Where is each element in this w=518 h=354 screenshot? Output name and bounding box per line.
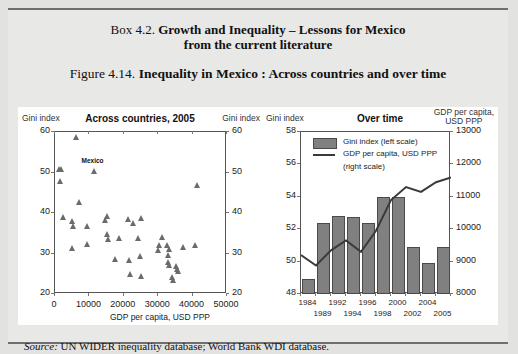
legend-label-gdp: GDP per capita, USD PPP xyxy=(343,149,437,158)
scatter-marker xyxy=(159,234,165,240)
scatter-marker xyxy=(138,273,144,279)
xtick-label-top: 1984 xyxy=(292,298,324,307)
ytick-label-left: 30 xyxy=(30,247,50,257)
source-label: Source: xyxy=(24,340,58,352)
scatter-marker xyxy=(105,236,111,242)
ytick-mark-right xyxy=(226,253,229,254)
scatter-marker xyxy=(170,277,176,283)
xtick-label-bottom: 2005 xyxy=(427,309,459,318)
xtick-mark xyxy=(157,293,158,296)
ytick-label-left: 20 xyxy=(30,287,50,297)
ytick-label-right: 11000 xyxy=(456,190,480,200)
legend-label-gini: Gini index (left scale) xyxy=(343,137,418,146)
scatter-marker xyxy=(102,217,108,223)
ytick-label-left: 60 xyxy=(30,125,50,135)
chart-right-ylabel-right: GDP per capita, USD PPP xyxy=(434,108,494,126)
scatter-marker xyxy=(91,168,97,174)
ytick-mark-right xyxy=(450,131,453,132)
ytick-mark-left xyxy=(297,163,300,164)
chart-left-ylabel-left: Gini index xyxy=(22,114,60,123)
xtick-mark xyxy=(420,293,421,296)
ytick-mark-left xyxy=(297,228,300,229)
scatter-marker xyxy=(194,182,200,188)
scatter-marker xyxy=(112,256,118,262)
box-title-line1: Growth and Inequality – Lessons for Mexi… xyxy=(158,22,405,37)
source-note: Source: UN WIDER inequality database; Wo… xyxy=(24,340,329,352)
xtick-label-top: 1996 xyxy=(352,298,384,307)
scatter-plot-area: Mexico xyxy=(54,131,226,293)
box-label: Box 4.2. xyxy=(111,22,155,37)
xtick-mark xyxy=(54,293,55,296)
ytick-mark-right xyxy=(450,196,453,197)
xtick-mark xyxy=(405,293,406,296)
xtick-mark xyxy=(330,293,331,296)
scatter-marker xyxy=(76,199,82,205)
ytick-label-right: 13000 xyxy=(456,125,481,135)
ytick-label-right: 30 xyxy=(232,247,242,257)
scatter-marker xyxy=(155,247,161,253)
scatter-marker xyxy=(130,220,136,226)
scatter-marker xyxy=(175,268,181,274)
ytick-mark-left xyxy=(297,131,300,132)
xtick-mark xyxy=(315,293,316,296)
scatter-marker xyxy=(126,257,132,263)
ytick-label-right: 40 xyxy=(232,206,242,216)
xtick-label-bottom: 2002 xyxy=(397,309,429,318)
scatter-marker xyxy=(69,245,75,251)
ytick-mark-right xyxy=(450,228,453,229)
chart-left-ylabel-right: Gini index xyxy=(222,114,260,123)
ytick-mark-right xyxy=(226,172,229,173)
xtick-label-top: 1992 xyxy=(322,298,354,307)
xtick-mark-top xyxy=(226,131,227,134)
ytick-mark-left xyxy=(51,212,54,213)
scatter-marker xyxy=(165,252,171,258)
xtick-mark xyxy=(88,293,89,296)
legend-label-gdp-scale: (right scale) xyxy=(343,162,385,171)
ytick-label-left: 50 xyxy=(30,166,50,176)
xtick-mark-top xyxy=(88,131,89,134)
ytick-mark-left xyxy=(297,261,300,262)
xtick-label: 20000 xyxy=(105,299,141,309)
xtick-mark xyxy=(226,293,227,296)
scatter-marker xyxy=(57,178,63,184)
xtick-label: 10000 xyxy=(70,299,106,309)
scatter-marker xyxy=(192,242,198,248)
ytick-label-right: 10000 xyxy=(456,222,481,232)
ytick-mark-right xyxy=(450,163,453,164)
xtick-mark-top xyxy=(157,131,158,134)
box-frame: Box 4.2. Growth and Inequality – Lessons… xyxy=(8,8,508,344)
ytick-mark-right xyxy=(226,212,229,213)
box-title: Box 4.2. Growth and Inequality – Lessons… xyxy=(8,22,508,52)
chart-left-xlabel: GDP per capita, USD PPP xyxy=(110,312,210,322)
bar-line-plot-area: Gini index (left scale)GDP per capita, U… xyxy=(300,131,450,293)
xtick-label-bottom: 1998 xyxy=(367,309,399,318)
xtick-mark-top xyxy=(123,131,124,134)
scatter-marker xyxy=(166,262,172,268)
ytick-label-right: 20 xyxy=(232,287,242,297)
legend-line-swatch xyxy=(313,154,335,156)
charts-panel: Across countries, 2005 Gini index Gini i… xyxy=(18,107,498,325)
ytick-label-left: 56 xyxy=(274,157,296,167)
scatter-marker xyxy=(84,241,90,247)
scatter-marker xyxy=(137,253,143,259)
figure-label: Figure 4.14. xyxy=(70,66,136,81)
figure-title: Figure 4.14. Inequality in Mexico : Acro… xyxy=(8,66,508,82)
xtick-mark xyxy=(345,293,346,296)
xtick-label: 50000 xyxy=(208,299,244,309)
xtick-mark-top xyxy=(54,131,55,134)
ytick-label-right: 12000 xyxy=(456,157,481,167)
xtick-label-top: 2000 xyxy=(382,298,414,307)
scatter-marker xyxy=(58,166,64,172)
ytick-label-right: 50 xyxy=(232,166,242,176)
ytick-label-left: 40 xyxy=(30,206,50,216)
chart-across-countries: Across countries, 2005 Gini index Gini i… xyxy=(18,107,262,325)
chart-over-time: Over time Gini index GDP per capita, USD… xyxy=(262,107,498,325)
xtick-mark xyxy=(123,293,124,296)
ytick-label-left: 52 xyxy=(274,222,296,232)
scatter-marker xyxy=(138,215,144,221)
xtick-label-bottom: 1994 xyxy=(337,309,369,318)
xtick-mark-top xyxy=(192,131,193,134)
xtick-mark xyxy=(192,293,193,296)
xtick-label: 30000 xyxy=(139,299,175,309)
chart-right-ylabel-left: Gini index xyxy=(266,114,304,123)
